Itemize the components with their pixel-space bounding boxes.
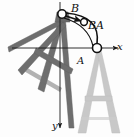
point-label-B: B [71,3,79,14]
point-marker-A [93,44,102,53]
y-axis-label: y [52,121,58,131]
vector-ba-marker [81,19,88,26]
mechanics-figure: B BA A x y [0,0,134,137]
point-marker-B [58,10,66,18]
vector-label-ba: BA [88,20,104,31]
point-label-A: A [77,56,84,66]
x-axis-label: x [117,42,123,52]
figure-canvas [0,0,134,137]
ladder-initial-rotated [8,12,74,128]
ladder-final-upright [78,50,120,133]
